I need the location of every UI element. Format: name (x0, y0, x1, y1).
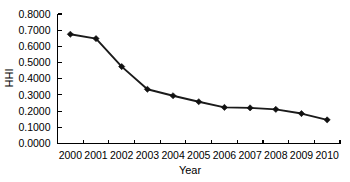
x-tick-label: 2006 (213, 149, 237, 161)
hhi-series-line (70, 34, 327, 120)
data-point-marker (196, 99, 202, 105)
y-tick-label: 0.0000 (18, 137, 50, 149)
x-tick-label: 2002 (110, 149, 134, 161)
y-tick-label: 0.4000 (18, 72, 50, 84)
x-tick-label: 2009 (290, 149, 314, 161)
x-tick-label: 2010 (315, 149, 339, 161)
y-axis-tick-marks (58, 14, 62, 144)
y-tick-label: 0.6000 (18, 40, 50, 52)
x-axis-title: Year (179, 164, 202, 176)
x-tick-label: 2001 (84, 149, 108, 161)
x-tick-label: 2007 (238, 149, 262, 161)
data-point-marker (298, 110, 304, 116)
y-tick-label: 0.3000 (18, 89, 50, 101)
y-tick-label: 0.1000 (18, 121, 50, 133)
y-tick-label: 0.8000 (18, 8, 50, 20)
hhi-line-chart: 0.00000.10000.20000.30000.40000.50000.60… (0, 0, 350, 182)
x-tick-label: 2008 (264, 149, 288, 161)
y-tick-label: 0.5000 (18, 56, 50, 68)
x-tick-label: 2005 (187, 149, 211, 161)
x-axis-tick-marks (58, 140, 341, 144)
y-axis-title: HHI (3, 69, 15, 88)
x-tick-label: 2003 (136, 149, 160, 161)
x-tick-label: 2004 (161, 149, 185, 161)
x-axis-tick-labels: 2000200120022003200420052006200720082009… (59, 149, 339, 161)
data-point-marker (273, 106, 279, 112)
data-point-marker (247, 105, 253, 111)
data-point-marker (324, 117, 330, 123)
y-axis-tick-labels: 0.00000.10000.20000.30000.40000.50000.60… (18, 8, 50, 150)
data-point-marker (170, 93, 176, 99)
data-point-marker (221, 104, 227, 110)
x-tick-label: 2000 (59, 149, 83, 161)
chart-canvas: 0.00000.10000.20000.30000.40000.50000.60… (0, 0, 350, 182)
y-tick-label: 0.2000 (18, 105, 50, 117)
data-point-marker (67, 31, 73, 37)
hhi-series-markers (67, 31, 330, 123)
y-tick-label: 0.7000 (18, 24, 50, 36)
